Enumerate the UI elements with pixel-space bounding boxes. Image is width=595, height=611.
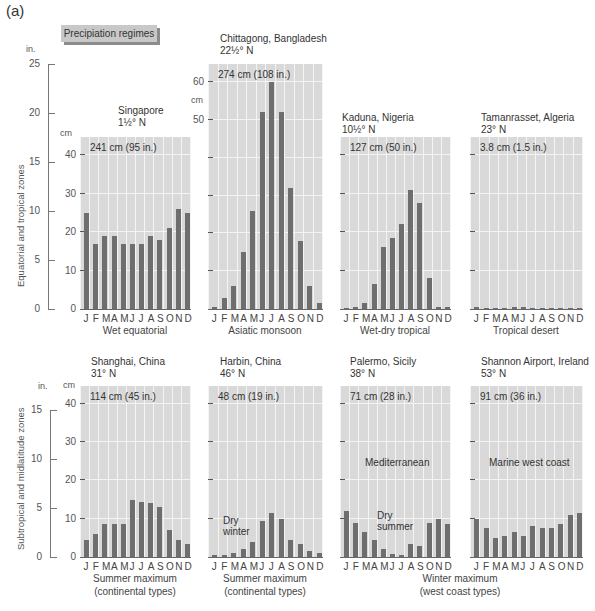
month-label: F [483,561,489,572]
zone-label-bottom: Subtropical and midlatitude zones [15,407,26,550]
cm-tick-label: 10 [56,513,76,524]
grid-line-vertical [554,137,555,309]
inch-tick-mark [48,260,55,261]
grid-line-vertical [313,386,314,557]
month-label: M [102,561,110,572]
station-label-singapore: Singapore1½° N [118,105,164,129]
inch-tick-label: 15 [22,404,42,415]
bar-F [93,534,98,557]
grid-line-vertical [218,64,219,309]
inch-tick-mark [50,410,57,411]
month-label: O [297,313,305,324]
caption-wet-dry-tropical: Wet-dry tropical [320,324,470,337]
month-label: J [474,313,479,324]
grid-line-vertical [172,386,173,557]
annotation-dry-winter: Dry winter [223,515,250,537]
bar-J [399,555,404,557]
grid-line-vertical [479,386,480,557]
grid-line-vertical [395,137,396,309]
annual-total: 91 cm (36 in.) [480,391,541,402]
bar-N [568,515,573,557]
bar-A [502,536,507,557]
bar-A [372,540,377,557]
month-label: D [184,313,191,324]
legend-box: Precipiation regimes [61,25,157,42]
grid-line-vertical [275,386,276,557]
month-label: S [157,313,164,324]
grid-line-vertical [450,386,451,557]
cm-tick-mark [470,441,475,442]
grid-line-vertical [322,64,323,309]
cm-tick-mark [208,81,213,82]
cm-tick-mark [80,193,85,194]
cm-unit: cm [63,380,75,390]
annual-total: 127 cm (50 in.) [350,142,417,153]
month-label: A [240,561,247,572]
month-label: A [539,561,546,572]
station-name: Chittagong, Bangladesh [220,33,327,45]
grid-line-vertical [489,386,490,557]
station-latitude: 46° N [220,368,281,380]
grid-line-vertical [573,386,574,557]
grid-line-horizontal [471,441,583,442]
inch-tick-mark [50,459,57,460]
grid-line-vertical [208,386,209,557]
bar-A [241,252,246,309]
station-name: Kaduna, Nigeria [342,112,414,124]
grid-line-horizontal [209,119,323,120]
month-label: J [389,561,394,572]
station-name: Palermo, Sicily [350,356,416,368]
bar-N [307,551,312,557]
grid-line-vertical [153,137,154,309]
bar-M [362,303,367,309]
grid-line-vertical [432,386,433,557]
station-label-palermo: Palermo, Sicily38° N [350,356,416,380]
chart-panel-palermo: 71 cm (28 in.) [340,386,451,558]
bar-J [474,519,479,557]
grid-line-vertical [358,137,359,309]
bar-M [102,236,107,309]
grid-line-vertical [563,137,564,309]
inch-unit-top: in. [26,44,36,54]
grid-line-vertical [284,64,285,309]
station-label-chittagong: Chittagong, Bangladesh22½° N [220,33,327,57]
month-label: J [139,561,144,572]
inch-tick-label: 0 [22,551,42,562]
bar-M [231,286,236,309]
month-label: J [84,313,89,324]
cm-tick-mark [470,231,475,232]
bar-A [540,308,545,310]
month-label: O [558,561,566,572]
cm-tick-mark [80,479,85,480]
inch-tick-mark [50,508,57,509]
inch-tick-label: 20 [20,107,40,118]
bar-D [185,544,190,557]
month-label: N [175,561,182,572]
grid-line-horizontal [81,403,191,404]
month-label: M [120,313,128,324]
cm-unit: cm [191,95,203,105]
bar-O [298,544,303,557]
grid-line-vertical [322,386,323,557]
bar-M [493,538,498,557]
grid-line-horizontal [341,193,451,194]
bar-D [445,524,450,557]
grid-line-horizontal [81,441,191,442]
month-label: A [148,313,155,324]
chart-panel-singapore: 241 cm (95 in.) [80,137,191,310]
month-label: S [417,561,424,572]
grid-line-horizontal [341,403,451,404]
bar-F [484,308,489,310]
cm-tick-mark [80,154,85,155]
grid-line-vertical [545,137,546,309]
month-label: F [93,313,99,324]
annual-total: 3.8 cm (1.5 in.) [480,142,547,153]
month-label: O [426,313,434,324]
bar-J [212,307,217,309]
cm-tick-mark [340,231,345,232]
cm-tick-mark [208,195,213,196]
bar-J [212,555,217,557]
bar-F [93,244,98,310]
grid-line-horizontal [209,479,323,480]
cm-tick-mark [80,441,85,442]
